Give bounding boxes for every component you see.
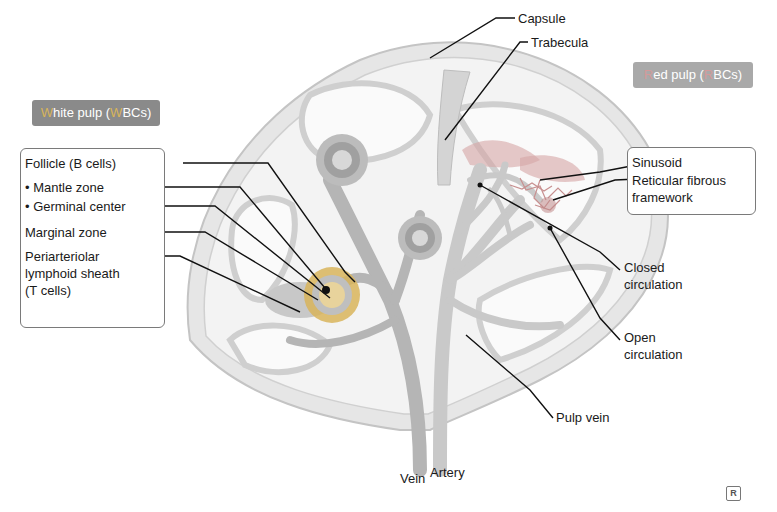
red-pulp-header-letter-r: R xyxy=(644,67,653,82)
label-artery: Artery xyxy=(430,465,465,480)
red-pulp-header-text-end: BCs) xyxy=(713,67,742,82)
label-trabecula: Trabecula xyxy=(531,35,588,50)
white-pulp-header: White pulp (WBCs) xyxy=(32,100,160,126)
label-pals-1: Periarteriolar xyxy=(25,249,99,264)
label-mantle-zone: • Mantle zone xyxy=(25,180,104,195)
label-germinal-center: • Germinal center xyxy=(25,199,126,214)
label-pals-3: (T cells) xyxy=(25,283,71,298)
red-pulp-header-text: ed pulp ( xyxy=(653,67,704,82)
label-sinusoid: Sinusoid xyxy=(632,155,682,170)
white-pulp-header-text-end: BCs) xyxy=(122,105,151,120)
label-closed-2: circulation xyxy=(624,277,683,292)
label-reticular-2: framework xyxy=(632,190,693,205)
white-pulp-header-letter-w2: W xyxy=(110,105,122,120)
label-closed-1: Closed xyxy=(624,260,664,275)
label-capsule: Capsule xyxy=(518,11,566,26)
white-pulp-header-letter-w: W xyxy=(41,105,53,120)
label-reticular-1: Reticular fibrous xyxy=(632,173,726,188)
label-vein: Vein xyxy=(400,471,425,486)
white-pulp-header-text: hite pulp ( xyxy=(53,105,110,120)
red-pulp-header-letter-r2: R xyxy=(704,67,713,82)
label-pulp-vein: Pulp vein xyxy=(556,410,609,425)
label-follicle: Follicle (B cells) xyxy=(25,156,116,171)
label-open-1: Open xyxy=(624,330,656,345)
label-pals-2: lymphoid sheath xyxy=(25,266,120,281)
label-marginal-zone: Marginal zone xyxy=(25,225,107,240)
logo-icon: R xyxy=(726,486,741,501)
label-open-2: circulation xyxy=(624,347,683,362)
red-pulp-header: Red pulp (RBCs) xyxy=(633,62,753,88)
